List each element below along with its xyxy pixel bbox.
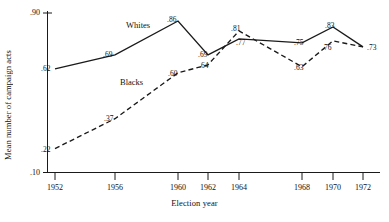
x-tick-label-1956: 1956: [100, 183, 130, 192]
point-label-blacks-1970: .76: [322, 43, 331, 52]
x-tick-label-1962: 1962: [193, 183, 223, 192]
point-label-whites-1960: .86: [167, 15, 176, 24]
series-line-whites-main: [55, 21, 363, 69]
series-annotation-blacks: Blacks: [120, 77, 143, 87]
x-tick-label-1964: 1964: [224, 183, 254, 192]
point-label-blacks-1962: .64: [199, 61, 208, 70]
x-ticks: [55, 173, 363, 181]
y-tick-label-low: .10: [16, 168, 40, 177]
x-axis-title: Election year: [0, 198, 389, 208]
chart-figure: Mean number of campaign acts Election ye…: [0, 0, 389, 222]
y-tick-label-high: .90: [16, 8, 40, 17]
x-tick-label-1952: 1952: [40, 183, 70, 192]
point-label-whites-1964: .77: [236, 38, 245, 47]
point-label-blacks-1960: .60: [168, 69, 177, 78]
point-label-whites-1968: .75: [294, 38, 303, 47]
point-label-blacks-1952: .22: [41, 145, 50, 154]
series-line-blacks: [55, 31, 363, 149]
cut-off-caption: [0, 214, 389, 222]
x-tick-label-1970: 1970: [318, 183, 348, 192]
y-axis-title: Mean number of campaign acts: [3, 50, 17, 160]
point-label-whites-1970: .83: [325, 21, 334, 30]
point-label-whites-1956: .69: [103, 50, 112, 59]
point-label-blacks-1956: .37: [104, 114, 113, 123]
x-tick-label-1972: 1972: [348, 183, 378, 192]
series-annotation-whites: Whites: [126, 20, 150, 30]
point-label-whites-1962: .69: [198, 50, 207, 59]
x-tick-label-1960: 1960: [163, 183, 193, 192]
point-label-blacks-1964: .81: [231, 24, 240, 33]
point-label-whites-1972: .73: [367, 43, 376, 52]
point-label-blacks-1968: .63: [294, 63, 303, 72]
point-label-whites-1952: .62: [41, 64, 50, 73]
x-tick-label-1968: 1968: [287, 183, 317, 192]
